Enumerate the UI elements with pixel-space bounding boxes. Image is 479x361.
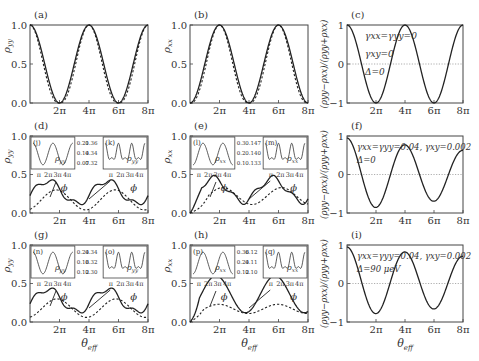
inset-x-tick: 2π [204,280,213,288]
x-tick-label: 8π [302,215,315,226]
panel-label: (h) [194,229,208,240]
y-tick-label: 0.0 [11,317,27,328]
inset-scale-label: 0.32 [85,160,97,166]
panel-d: (d)0.00.51.02π4π6π8πρyy(j)ρyy0.210.140.0… [1,120,155,226]
inset-x-tick: 4π [135,280,144,288]
inset-x-tick: 2π [44,280,53,288]
x-tick-label: 6π [112,324,125,335]
panel-e: (e)0.00.51.02π4π6π8πρxx(l)ρxx0.30.20.1π2… [161,120,315,226]
inset-x-tick: 2π [44,171,53,179]
figure-canvas: (a)0.00.51.02π4π6π8πρyy(b)0.00.51.02π4π6… [0,0,479,361]
x-tick-label: 6π [272,105,285,116]
inset-scale-label: 0.11 [245,259,257,265]
phi-label: ϕ [61,291,68,302]
y-axis-label: (ρyy−ρxx)/(ρyy+ρxx) [319,130,329,219]
plot-frame [190,25,308,103]
panel-g: (g)0.00.51.02π4π6π8πρyy(n)ρyy0.240.180.1… [1,229,155,352]
panel-label: (b) [194,9,208,20]
inset-scale-label: 0.30 [85,269,98,275]
y-tick-label: 0.0 [171,317,187,328]
inset-x-tick: 2π [116,280,125,288]
phi-label: ϕ [290,291,297,302]
inset-label: (k) [105,139,115,147]
inset-x-tick: 3π [286,171,295,179]
x-tick-label: 2π [213,105,226,116]
x-tick-label: 2π [213,324,226,335]
arrow [50,291,56,306]
x-tick-label: 4π [399,324,412,335]
inset-x-tick: 2π [116,171,125,179]
panel-f: (f)−1012π4π6π8π(ρyy−ρxx)/(ρyy+ρxx)γxx=γy… [319,120,471,226]
x-tick-label: 2π [370,215,383,226]
x-tick-label: 4π [399,215,412,226]
inset-x-tick: 3π [53,280,62,288]
panel-label: (i) [351,229,362,240]
y-tick-label: 0.5 [11,59,27,70]
inset-scale-label: 0.34 [85,249,98,255]
y-tick-label: 0.5 [171,59,187,70]
x-tick-label: 4π [83,324,96,335]
inset-x-tick: 4π [295,280,304,288]
y-tick-label: 1 [338,240,344,251]
y-axis-label: (ρyy−ρxx)/(ρyy+ρxx) [319,20,329,109]
solid-curve [190,175,308,213]
x-axis-label: θeff [81,337,98,352]
x-tick-label: 8π [142,215,155,226]
x-tick-label: 6π [272,324,285,335]
y-tick-label: 0.0 [171,208,187,219]
y-tick-label: 0.0 [11,98,27,109]
arrow [50,182,56,197]
phi-label: ϕ [221,182,228,193]
solid-curve [190,25,308,103]
x-tick-label: 4π [83,215,96,226]
x-tick-label: 2π [53,324,66,335]
inset-x-tick: 4π [63,280,72,288]
y-axis-label: ρxx [161,150,174,165]
inset-scale-label: 0.12 [245,249,257,255]
x-tick-label: 6π [112,105,125,116]
phi-label: ϕ [61,182,68,193]
panel-label: (c) [351,9,365,20]
inset-x-tick: 2π [276,171,285,179]
y-tick-label: 0.5 [11,278,27,289]
arrow [210,182,216,197]
panel-h: (h)0.00.51.02π4π6π8πρxx(p)ρxx0.360.240.1… [161,229,315,352]
plot-frame [30,25,148,103]
y-tick-label: 0.5 [171,169,187,180]
inset-scale-label: 0.133 [245,160,261,166]
inset-x-tick: π [269,171,274,179]
inset-x-tick: 4π [223,280,232,288]
x-tick-label: 4π [83,105,96,116]
inset-x-tick: 4π [63,171,72,179]
y-tick-label: 0.5 [171,278,187,289]
inset-x-tick: 3π [126,171,135,179]
y-tick-label: 1.0 [11,240,27,251]
x-tick-label: 2π [370,105,383,116]
y-tick-label: 1.0 [171,131,187,142]
inset-label: (p) [193,248,203,256]
x-tick-label: 8π [457,105,470,116]
y-tick-label: −1 [329,208,344,219]
inset-x-tick: 4π [295,171,304,179]
inset-scale-label: 0.34 [85,150,98,156]
phi-label: ϕ [290,182,297,193]
y-axis-label: ρyy [1,258,14,274]
x-tick-label: 4π [399,105,412,116]
phi-label: ϕ [130,291,137,302]
panel-label: (g) [34,229,48,240]
panel-b: (b)0.00.51.02π4π6π8πρxx [161,9,315,116]
inset-x-tick: π [109,280,114,288]
y-tick-label: 1.0 [11,131,27,142]
annotation: γxy=0 [365,49,394,59]
panel-label: (a) [34,9,48,20]
y-axis-label: ρxx [161,259,174,274]
y-axis-label: ρyy [1,38,14,54]
y-tick-label: 0 [338,59,344,70]
y-tick-label: −1 [329,98,344,109]
x-tick-label: 4π [243,215,256,226]
x-tick-label: 8π [457,215,470,226]
inset-scale-label: 0.32 [85,259,97,265]
y-tick-label: 0.0 [11,208,27,219]
annotation: γxx=γyy=0.04, γxy=0.002 [357,251,471,261]
inset-label: (m) [265,139,277,147]
